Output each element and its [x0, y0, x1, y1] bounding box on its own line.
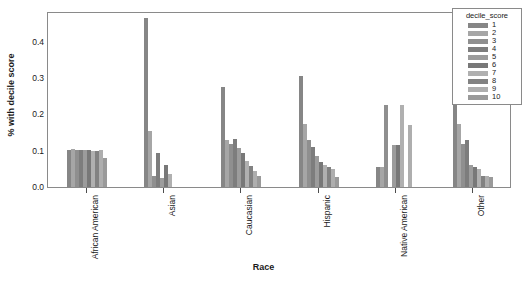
- x-axis-tick-mark: [86, 188, 87, 193]
- y-axis-tick-label: 0.1: [32, 147, 47, 156]
- legend-item: 3: [456, 37, 518, 45]
- bar-group: [299, 13, 339, 187]
- bar-group: [144, 13, 184, 187]
- plot-panel: [47, 12, 511, 188]
- bar: [408, 125, 412, 187]
- plot-area: [48, 13, 510, 187]
- x-axis-title: Race: [0, 262, 527, 272]
- legend-items: 12345678910: [456, 21, 518, 101]
- legend-item: 6: [456, 61, 518, 69]
- y-axis-title: % with decile score: [2, 0, 20, 190]
- y-axis-tick-label: 0.0: [32, 183, 47, 192]
- bar: [168, 174, 172, 187]
- legend-swatch: [468, 87, 488, 92]
- legend: decile_score 12345678910: [452, 8, 522, 105]
- bar-group: [376, 13, 416, 187]
- y-axis-tick-label: 0.4: [32, 38, 47, 47]
- legend-item: 8: [456, 77, 518, 85]
- x-axis-title-label: Race: [253, 262, 275, 272]
- legend-swatch: [468, 79, 488, 84]
- legend-swatch: [468, 71, 488, 76]
- legend-label: 10: [492, 93, 500, 101]
- x-axis-tick-mark: [240, 188, 241, 193]
- bar-group: [67, 13, 107, 187]
- x-axis-tick-label: African American: [90, 195, 100, 259]
- legend-title: decile_score: [456, 11, 518, 20]
- legend-swatch: [468, 95, 488, 100]
- bar: [103, 158, 107, 187]
- x-axis-tick-mark: [472, 188, 473, 193]
- legend-swatch: [468, 47, 488, 52]
- x-axis-tick-mark: [318, 188, 319, 193]
- bar: [400, 105, 404, 187]
- x-axis-tick-label: Caucasian: [244, 195, 254, 235]
- bar: [489, 177, 493, 187]
- bar-group: [221, 13, 261, 187]
- legend-swatch: [468, 55, 488, 60]
- x-axis-tick-mark: [395, 188, 396, 193]
- y-axis-title-label: % with decile score: [6, 53, 16, 136]
- x-axis-tick-label: Native American: [399, 195, 409, 257]
- legend-item: 10: [456, 93, 518, 101]
- x-axis-tick-label: Hispanic: [322, 195, 332, 228]
- bar: [257, 176, 261, 187]
- legend-item: 2: [456, 29, 518, 37]
- legend-item: 5: [456, 53, 518, 61]
- y-axis-tick-label: 0.3: [32, 74, 47, 83]
- legend-item: 4: [456, 45, 518, 53]
- legend-swatch: [468, 39, 488, 44]
- legend-item: 7: [456, 69, 518, 77]
- legend-swatch: [468, 63, 488, 68]
- legend-swatch: [468, 23, 488, 28]
- legend-swatch: [468, 31, 488, 36]
- decile-score-bar-chart: % with decile score 0.00.10.20.30.4 Afri…: [0, 0, 527, 283]
- x-axis-tick-label: Other: [476, 195, 486, 216]
- legend-item: 9: [456, 85, 518, 93]
- y-axis-tick-label: 0.2: [32, 110, 47, 119]
- bar: [384, 105, 388, 187]
- x-axis-tick-mark: [163, 188, 164, 193]
- legend-item: 1: [456, 21, 518, 29]
- bar: [335, 177, 339, 187]
- x-axis-tick-label: Asian: [167, 195, 177, 216]
